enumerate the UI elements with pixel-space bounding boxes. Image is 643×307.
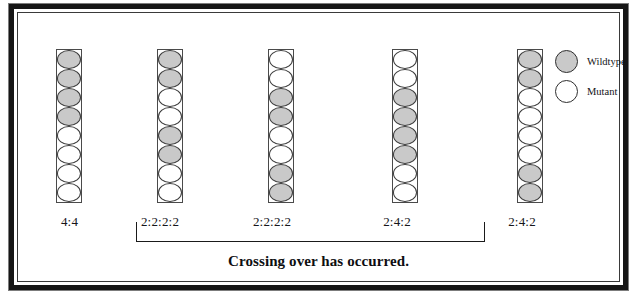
spore-wildtype — [393, 88, 417, 107]
legend-label-wildtype: Wildtype — [587, 56, 626, 67]
spore-mutant — [518, 145, 542, 164]
ratio-label: 4:4 — [47, 214, 92, 230]
spore-wildtype — [393, 107, 417, 126]
figure-frame: 4:42:2:2:22:2:2:22:4:22:4:2 Crossing ove… — [9, 4, 628, 290]
spore-mutant — [57, 126, 81, 145]
figure-caption: Crossing over has occurred. — [18, 253, 619, 270]
legend: Wildtype Mutant — [555, 46, 635, 106]
ascus-column — [56, 49, 82, 203]
spore-mutant — [158, 183, 182, 202]
spore-wildtype — [269, 88, 293, 107]
spore-wildtype — [518, 69, 542, 88]
legend-label-mutant: Mutant — [587, 86, 617, 97]
spore-wildtype — [518, 183, 542, 202]
spore-wildtype — [57, 107, 81, 126]
spore-mutant — [393, 164, 417, 183]
open-circle-icon — [555, 80, 578, 103]
spore-wildtype — [269, 183, 293, 202]
spore-wildtype — [158, 50, 182, 69]
spore-mutant — [393, 69, 417, 88]
spore-mutant — [158, 88, 182, 107]
spore-wildtype — [57, 50, 81, 69]
spore-wildtype — [518, 50, 542, 69]
ascus-column — [392, 49, 418, 203]
spore-wildtype — [158, 145, 182, 164]
spore-wildtype — [393, 145, 417, 164]
spore-mutant — [158, 107, 182, 126]
spore-mutant — [269, 69, 293, 88]
spore-wildtype — [57, 69, 81, 88]
spore-mutant — [518, 126, 542, 145]
spore-mutant — [269, 50, 293, 69]
legend-item-wildtype: Wildtype — [555, 46, 635, 76]
spore-mutant — [393, 183, 417, 202]
spore-wildtype — [269, 107, 293, 126]
ascus-column — [157, 49, 183, 203]
ascus-column — [268, 49, 294, 203]
spore-wildtype — [158, 126, 182, 145]
figure-inner-border: 4:42:2:2:22:2:2:22:4:22:4:2 Crossing ove… — [17, 12, 620, 282]
spore-mutant — [57, 183, 81, 202]
legend-item-mutant: Mutant — [555, 76, 635, 106]
spore-wildtype — [269, 164, 293, 183]
spore-mutant — [518, 107, 542, 126]
spore-mutant — [393, 50, 417, 69]
spore-mutant — [158, 164, 182, 183]
ratio-label: 2:4:2 — [492, 214, 552, 230]
filled-circle-icon — [555, 50, 578, 73]
crossing-over-bracket — [136, 222, 485, 242]
ascus-column — [517, 49, 543, 203]
spore-mutant — [57, 145, 81, 164]
spore-wildtype — [57, 88, 81, 107]
spore-mutant — [269, 145, 293, 164]
spore-wildtype — [393, 126, 417, 145]
spore-wildtype — [158, 69, 182, 88]
spore-mutant — [57, 164, 81, 183]
spore-wildtype — [518, 164, 542, 183]
spore-mutant — [518, 88, 542, 107]
spore-mutant — [269, 126, 293, 145]
